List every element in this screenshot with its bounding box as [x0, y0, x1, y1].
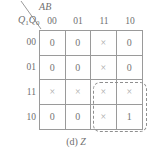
caption-prefix: (d)	[66, 136, 78, 147]
kmap-cell-r3c0[interactable]: 0	[40, 105, 66, 130]
kmap-cell-r0c0[interactable]: 0	[40, 31, 66, 56]
kmap-cell-r2c3[interactable]: ×	[117, 80, 143, 105]
figure-caption: (d) Z	[0, 136, 152, 147]
kmap-cell-r0c1[interactable]: 0	[66, 31, 92, 56]
row-variable-q0: Q	[29, 14, 36, 25]
kmap-cell-r1c3[interactable]: 0	[117, 56, 143, 81]
row-variable-label: Q1Q0	[18, 14, 39, 25]
kmap-cell-r0c3[interactable]: 0	[117, 31, 143, 56]
kmap-cell-r1c2[interactable]: ×	[91, 56, 117, 81]
column-header-11: 11	[91, 16, 117, 26]
column-header-01: 01	[65, 16, 91, 26]
kmap-cell-r3c3[interactable]: 1	[117, 105, 143, 130]
kmap-cell-r3c1[interactable]: 0	[66, 105, 92, 130]
kmap-cell-r1c0[interactable]: 0	[40, 56, 66, 81]
kmap-cell-r1c1[interactable]: 0	[66, 56, 92, 81]
kmap-cell-r2c1[interactable]: ×	[66, 80, 92, 105]
kmap-cell-r2c2[interactable]: ×	[91, 80, 117, 105]
column-header-00: 00	[39, 16, 65, 26]
row-header-01: 01	[8, 62, 36, 72]
karnaugh-map-figure: AB Q1Q0 00 01 11 10 00 01 11 10 0 0 × 0 …	[0, 0, 152, 158]
row-header-00: 00	[8, 37, 36, 47]
column-variable-label: AB	[39, 1, 52, 12]
kmap-cell-r3c2[interactable]: ×	[91, 105, 117, 130]
row-header-11: 11	[8, 87, 36, 97]
row-header-10: 10	[8, 112, 36, 122]
row-variable-q1-sub: 1	[25, 19, 29, 27]
column-header-10: 10	[117, 16, 143, 26]
kmap-cell-r2c0[interactable]: ×	[40, 80, 66, 105]
kmap-cell-r0c2[interactable]: ×	[91, 31, 117, 56]
caption-variable: Z	[80, 136, 86, 147]
kmap-grid: 0 0 × 0 0 0 × 0 × × × × 0 0 × 1	[39, 30, 143, 130]
